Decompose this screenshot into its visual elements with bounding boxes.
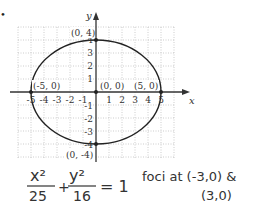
- svg-text:(0, 4): (0, 4): [71, 28, 95, 38]
- svg-text:-2: -2: [84, 114, 93, 124]
- y-axis-arrow-icon: [93, 12, 99, 20]
- svg-text:1: 1: [87, 74, 93, 84]
- svg-text:-4: -4: [40, 95, 49, 105]
- eq-equals-one: = 1: [100, 177, 129, 196]
- svg-text:1: 1: [106, 95, 112, 105]
- point-0-4: [94, 38, 98, 42]
- svg-text:-2: -2: [66, 95, 75, 105]
- svg-text:2: 2: [119, 95, 125, 105]
- eq-numerator-x: x²: [30, 166, 46, 185]
- svg-text:-3: -3: [53, 95, 62, 105]
- svg-text:-1: -1: [84, 101, 93, 111]
- eq-denominator-16: 16: [73, 188, 91, 204]
- svg-text:3: 3: [132, 95, 138, 105]
- y-axis-label: y: [85, 10, 92, 21]
- svg-text:(0, 0): (0, 0): [100, 81, 124, 91]
- svg-text:5: 5: [158, 95, 164, 105]
- eq-numerator-y: y²: [69, 166, 85, 185]
- point-5-0: [159, 90, 163, 94]
- foci-note-line2: (3,0): [201, 188, 232, 203]
- svg-text:(5, 0): (5, 0): [134, 81, 158, 91]
- handwritten-notes: x² 25 + y² 16 = 1 foci at (-3,0) & (3,0): [27, 166, 236, 204]
- svg-text:-4: -4: [84, 140, 93, 150]
- svg-text:2: 2: [87, 61, 93, 71]
- x-axis-label: x: [189, 95, 195, 106]
- svg-text:-3: -3: [84, 127, 93, 137]
- ellipse-graph: • x y: [0, 0, 268, 220]
- svg-text:(-5, 0): (-5, 0): [33, 81, 60, 91]
- svg-text:-5: -5: [27, 95, 36, 105]
- svg-text:3: 3: [87, 48, 93, 58]
- eq-denominator-25: 25: [29, 188, 47, 204]
- svg-text:(0, -4): (0, -4): [66, 150, 93, 160]
- svg-text:4: 4: [145, 95, 151, 105]
- eq-plus: +: [58, 179, 70, 195]
- point-0-0: [94, 90, 98, 94]
- point-0-neg4: [94, 142, 98, 146]
- bullet-marker: •: [0, 9, 6, 20]
- foci-note-line1: foci at (-3,0) &: [142, 169, 236, 184]
